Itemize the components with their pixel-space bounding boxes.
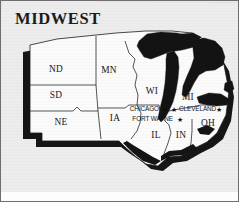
- midwest-map: ND SD NE MN IA WI MI IL IN OH CHICAGO ★ …: [1, 1, 239, 202]
- state-label-mn: MN: [101, 65, 117, 75]
- state-label-sd: SD: [50, 90, 63, 100]
- map-figure-frame: MIDWEST: [0, 0, 239, 202]
- state-label-wi: WI: [146, 86, 159, 96]
- city-marker-chicago: ★: [162, 106, 168, 114]
- bottom-margin: [1, 192, 239, 201]
- state-label-in: IN: [176, 130, 187, 140]
- city-marker-cleveland-west: ★: [171, 106, 177, 114]
- city-label-cleveland: CLEVELAND: [179, 105, 217, 112]
- city-label-fort-wayne: FORT WAYNE: [132, 115, 173, 122]
- city-marker-fort-wayne: ★: [177, 116, 183, 124]
- state-label-nd: ND: [49, 64, 63, 74]
- city-label-chicago: CHICAGO: [130, 105, 159, 112]
- city-marker-cleveland-east: ★: [216, 106, 222, 114]
- state-label-oh: OH: [201, 118, 215, 128]
- state-label-ne: NE: [54, 117, 67, 127]
- state-label-mi: MI: [182, 92, 194, 102]
- map-svg: ND SD NE MN IA WI MI IL IN OH CHICAGO ★ …: [1, 1, 239, 202]
- state-label-ia: IA: [110, 113, 121, 123]
- state-label-il: IL: [151, 130, 160, 140]
